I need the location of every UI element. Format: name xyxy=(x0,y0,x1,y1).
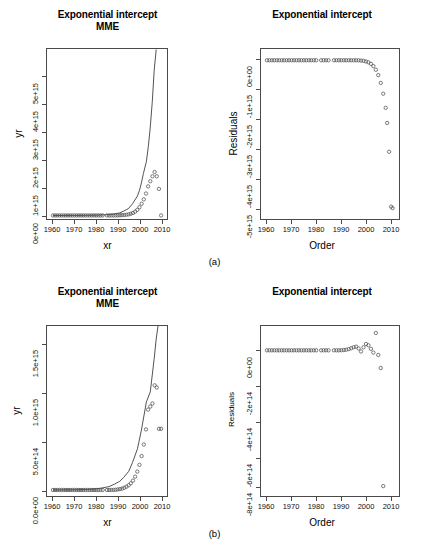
xtick xyxy=(162,497,163,501)
chart-title: Exponential intercept xyxy=(215,286,429,298)
xtick xyxy=(316,497,317,501)
figure-container: Exponential intercept MME xyxy=(0,0,429,546)
ytick-label: -6e+14 xyxy=(245,463,254,489)
y-axis-title: Residuals xyxy=(228,104,239,164)
ytick xyxy=(256,59,260,60)
plot-area-b-residuals xyxy=(260,325,400,497)
xtick xyxy=(266,220,267,224)
ytick xyxy=(256,487,260,488)
xtick-label: 1960 xyxy=(44,225,61,234)
xtick xyxy=(96,220,97,224)
ytick-label: 1.5e+15 xyxy=(31,349,40,379)
panel-caption: (a) xyxy=(0,256,429,267)
plot-svg-a-fit xyxy=(47,49,167,219)
chart-title: Exponential intercept xyxy=(0,286,215,298)
ytick-label: 5e+15 xyxy=(31,81,40,107)
xtick xyxy=(162,220,163,224)
xtick-label: 2010 xyxy=(383,225,400,234)
ytick xyxy=(256,149,260,150)
xtick-label: 1990 xyxy=(333,502,350,511)
ytick-label: 2e+15 xyxy=(31,165,40,191)
ytick-label: -2e+15 xyxy=(245,124,254,150)
ytick-label: 1.0e+15 xyxy=(31,398,40,428)
xtick xyxy=(96,497,97,501)
ytick-label: 5.0e+14 xyxy=(31,447,40,477)
plot-area-a-fit xyxy=(46,48,168,220)
observed-points xyxy=(51,170,163,217)
ytick-label: -2e+14 xyxy=(245,391,254,417)
panel-a: Exponential intercept MME xyxy=(0,0,429,273)
xtick-label: 2010 xyxy=(383,502,400,511)
ytick-label: 0e+00 xyxy=(245,64,254,90)
x-axis-title: xr xyxy=(0,240,215,251)
ytick xyxy=(256,386,260,387)
xtick xyxy=(140,497,141,501)
xtick-label: 1980 xyxy=(308,502,325,511)
xtick-label: 2010 xyxy=(154,502,171,511)
observed-points xyxy=(51,384,163,492)
xtick xyxy=(366,220,367,224)
chart-b-fit: Exponential intercept MME xyxy=(0,273,215,546)
ytick xyxy=(42,442,46,443)
xtick-label: 1960 xyxy=(258,225,275,234)
ytick xyxy=(256,209,260,210)
x-axis-title: Order xyxy=(215,240,429,251)
ytick xyxy=(42,491,46,492)
ytick-label: 1e+15 xyxy=(31,193,40,219)
xtick-label: 1970 xyxy=(66,225,83,234)
xtick xyxy=(391,220,392,224)
xtick-label: 2000 xyxy=(132,502,149,511)
xtick-label: 1980 xyxy=(308,225,325,234)
xtick xyxy=(52,220,53,224)
ytick xyxy=(256,119,260,120)
xtick-label: 1980 xyxy=(88,225,105,234)
xtick xyxy=(118,220,119,224)
chart-title: Exponential intercept xyxy=(0,9,215,21)
xtick xyxy=(316,220,317,224)
xtick-label: 1990 xyxy=(110,225,127,234)
ytick xyxy=(42,188,46,189)
ytick xyxy=(256,179,260,180)
x-axis-title: xr xyxy=(0,517,215,528)
xtick xyxy=(140,220,141,224)
plot-svg-a-residuals xyxy=(261,49,399,219)
y-axis-title: yr xyxy=(13,114,24,154)
ytick xyxy=(42,160,46,161)
xtick xyxy=(391,497,392,501)
ytick xyxy=(256,422,260,423)
xtick xyxy=(266,497,267,501)
ytick xyxy=(42,216,46,217)
ytick-label: 3e+15 xyxy=(31,137,40,163)
xtick xyxy=(291,220,292,224)
chart-subtitle: MME xyxy=(0,298,215,310)
xtick-label: 2000 xyxy=(358,502,375,511)
xtick-label: 1960 xyxy=(44,502,61,511)
residual-points xyxy=(265,59,394,210)
ytick xyxy=(42,76,46,77)
y-axis-title: yr xyxy=(11,391,22,431)
xtick xyxy=(74,220,75,224)
xtick xyxy=(291,497,292,501)
chart-title: Exponential intercept xyxy=(215,9,429,21)
chart-a-residuals: Exponential intercept xyxy=(215,0,429,273)
xtick xyxy=(52,497,53,501)
y-axis-title: Residuals xyxy=(227,380,236,440)
fitted-curve xyxy=(53,49,156,215)
chart-subtitle: MME xyxy=(0,21,215,33)
ytick xyxy=(42,132,46,133)
ytick-label: -3e+15 xyxy=(245,154,254,180)
ytick xyxy=(256,458,260,459)
panel-b: Exponential intercept MME xyxy=(0,273,429,546)
ytick-label: -4e+15 xyxy=(245,184,254,210)
ytick-label: -5e+15 xyxy=(245,214,254,240)
xtick-label: 1970 xyxy=(283,502,300,511)
x-axis-title: Order xyxy=(215,517,429,528)
plot-svg-b-residuals xyxy=(261,326,399,496)
ytick xyxy=(42,393,46,394)
chart-b-residuals: Exponential intercept xyxy=(215,273,429,546)
ytick-label: -4e+14 xyxy=(245,427,254,453)
residual-points xyxy=(265,331,385,488)
chart-a-fit: Exponential intercept MME xyxy=(0,0,215,273)
ytick xyxy=(42,104,46,105)
panel-caption: (b) xyxy=(0,528,429,539)
